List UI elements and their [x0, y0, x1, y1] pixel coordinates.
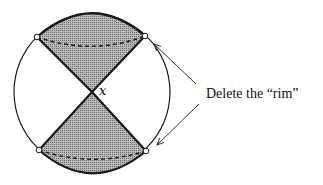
arrow-to-upper-rim [154, 44, 196, 84]
caption-delete-rim: Delete the “rim” [206, 86, 299, 102]
point-label-x: x [99, 83, 106, 98]
upper-shaded-cone [37, 13, 145, 92]
rim-point-top-right [142, 33, 148, 39]
rim-point-top-left [34, 34, 40, 40]
lower-shaded-cone [39, 92, 146, 173]
rim-point-bottom-left [36, 147, 42, 153]
rim-point-bottom-right [143, 148, 149, 154]
